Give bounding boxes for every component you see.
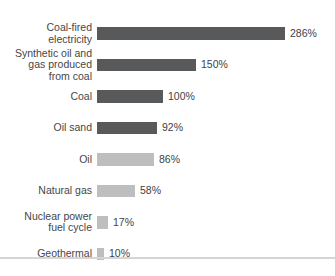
value-label: 150% — [201, 59, 228, 71]
bar — [97, 153, 154, 166]
value-label: 100% — [168, 91, 195, 103]
bar-row: Nuclear power fuel cycle 17% — [0, 207, 335, 238]
bar-row: Geothermal 10% — [0, 238, 335, 269]
bottom-divider — [0, 257, 335, 259]
bar-row: Natural gas 58% — [0, 175, 335, 206]
bar-row: Coal 100% — [0, 81, 335, 112]
bar-chart-rows: Coal-fired electricity 286% Synthetic oi… — [0, 18, 335, 270]
category-label: Oil — [0, 154, 97, 166]
category-label: Coal-fired electricity — [0, 22, 97, 45]
bar — [97, 122, 157, 135]
bar — [97, 90, 163, 103]
bar — [97, 185, 135, 198]
category-label: Nuclear power fuel cycle — [0, 211, 97, 234]
value-label: 286% — [290, 28, 317, 40]
category-label: Natural gas — [0, 185, 97, 197]
bar — [97, 27, 285, 40]
bar-row: Oil 86% — [0, 144, 335, 175]
value-label: 86% — [159, 154, 180, 166]
bar — [97, 216, 108, 229]
value-label: 58% — [140, 185, 161, 197]
category-label: Oil sand — [0, 122, 97, 134]
category-label: Coal — [0, 91, 97, 103]
bar — [97, 59, 196, 72]
bar-row: Oil sand 92% — [0, 112, 335, 143]
emissions-bar-chart: Coal-fired electricity 286% Synthetic oi… — [0, 0, 335, 276]
category-label: Synthetic oil and gas produced from coal — [0, 48, 97, 83]
bar-row: Coal-fired electricity 286% — [0, 18, 335, 49]
value-label: 17% — [113, 217, 134, 229]
value-label: 92% — [162, 122, 183, 134]
bar-row: Synthetic oil and gas produced from coal… — [0, 49, 335, 80]
